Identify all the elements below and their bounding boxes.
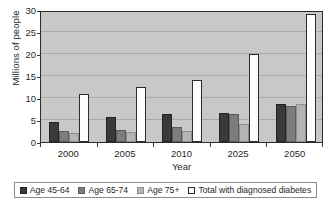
y-tick-label: 10: [2, 94, 36, 103]
y-tick-label: 20: [2, 50, 36, 59]
x-axis-title: Year: [40, 161, 323, 172]
y-tick-label: 15: [2, 72, 36, 81]
x-axis-tick-labels: 20002005201020252050: [40, 143, 323, 161]
legend-label: Total with diagnosed diabetes: [198, 186, 311, 195]
bar: [219, 113, 229, 142]
bar-group: [98, 12, 155, 142]
bar-group: [41, 12, 98, 142]
bar: [296, 104, 306, 142]
bar: [49, 122, 59, 142]
bar: [116, 130, 126, 142]
bar-chart-figure: Millions of people 051015202530 20002005…: [0, 0, 331, 204]
bar: [136, 87, 146, 142]
bar: [229, 114, 239, 142]
legend-item: Age 65-74: [78, 186, 128, 195]
x-tick-label: 2010: [157, 148, 207, 159]
x-tick-label: 2025: [213, 148, 263, 159]
bar: [69, 133, 79, 142]
legend-item: Total with diagnosed diabetes: [188, 186, 311, 195]
bar: [306, 14, 316, 142]
bar: [106, 117, 116, 142]
legend-swatch-icon: [78, 187, 85, 194]
bar: [79, 94, 89, 142]
bar: [249, 54, 259, 142]
legend-swatch-icon: [137, 187, 144, 194]
legend-item: Age 45-64: [20, 186, 70, 195]
legend-label: Age 75+: [147, 186, 179, 195]
legend-swatch-icon: [188, 187, 195, 194]
legend-item: Age 75+: [137, 186, 179, 195]
x-tick-mark: [97, 143, 98, 147]
x-tick-mark: [40, 143, 41, 147]
legend-label: Age 45-64: [30, 186, 70, 195]
bar-group: [267, 12, 323, 142]
legend-label: Age 65-74: [88, 186, 128, 195]
bar: [59, 131, 69, 142]
y-tick-label: 5: [2, 116, 36, 125]
y-axis-tick-labels: 051015202530: [0, 0, 40, 160]
x-tick-label: 2005: [100, 148, 150, 159]
y-tick-label: 0: [2, 138, 36, 147]
bar: [276, 104, 286, 142]
legend-swatch-icon: [20, 187, 27, 194]
bar: [162, 114, 172, 142]
y-tick-label: 25: [2, 28, 36, 37]
bar: [126, 132, 136, 142]
x-tick-mark: [266, 143, 267, 147]
x-tick-mark: [153, 143, 154, 147]
x-tick-label: 2000: [43, 148, 93, 159]
bar-group: [211, 12, 268, 142]
x-tick-label: 2050: [270, 148, 320, 159]
x-tick-mark: [210, 143, 211, 147]
bar: [182, 131, 192, 142]
bar: [286, 106, 296, 142]
bar: [192, 80, 202, 142]
bar-group: [154, 12, 211, 142]
chart-legend: Age 45-64Age 65-74Age 75+Total with diag…: [14, 182, 317, 198]
bar: [239, 124, 249, 142]
bar: [172, 127, 182, 142]
plot-area: [40, 11, 323, 143]
y-tick-label: 30: [2, 6, 36, 15]
x-tick-mark: [322, 143, 323, 147]
